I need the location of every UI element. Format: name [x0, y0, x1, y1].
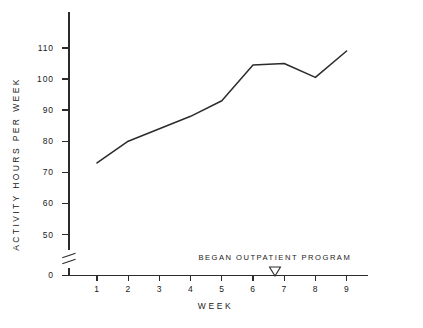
chart-figure: ACTIVITY HOURS PER WEEK WEEK 05060708090…	[0, 0, 423, 328]
annotation-label: BEGAN OUTPATIENT PROGRAM	[198, 253, 351, 262]
data-series-line	[97, 51, 347, 163]
plot-area	[0, 0, 423, 328]
down-triangle-marker-icon	[268, 263, 281, 274]
